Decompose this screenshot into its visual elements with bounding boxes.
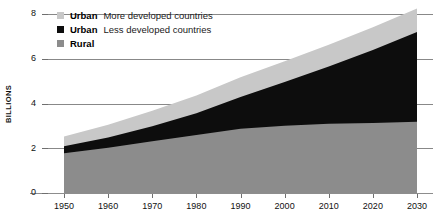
y-tick-label: 4 (31, 98, 36, 108)
y-tick-labels-group: 02468 (31, 8, 36, 197)
x-tick-label: 1960 (98, 201, 118, 211)
x-tick-labels-group: 195019601970198019902000201020202030 (54, 201, 427, 211)
y-tick-label: 6 (31, 53, 36, 63)
chart-legend: UrbanMore developed countriesUrbanLess d… (57, 9, 213, 49)
legend-item-description: Less developed countries (103, 24, 211, 35)
legend-item-description: More developed countries (103, 10, 212, 21)
legend-item[interactable]: UrbanMore developed countries (57, 9, 213, 21)
legend-swatch-icon (57, 12, 64, 19)
legend-item[interactable]: Rural (57, 37, 213, 49)
y-axis-title: BILLIONS (4, 85, 13, 123)
legend-swatch-icon (57, 26, 64, 33)
legend-swatch-icon (57, 40, 64, 47)
x-tick-label: 2020 (363, 201, 383, 211)
x-tick-label: 1980 (186, 201, 206, 211)
y-axis-title-group: BILLIONS (4, 85, 13, 123)
y-tick-label: 2 (31, 143, 36, 153)
x-tick-label: 1990 (230, 201, 250, 211)
x-tick-label: 2030 (407, 201, 427, 211)
x-tick-label: 2000 (275, 201, 295, 211)
chart-container: 02468 1950196019701980199020002010202020… (0, 0, 435, 222)
legend-item-key: Urban (70, 24, 97, 35)
x-tick-label: 1950 (54, 201, 74, 211)
legend-item-key: Urban (70, 10, 97, 21)
x-tick-label: 2010 (319, 201, 339, 211)
y-tick-label: 8 (31, 8, 36, 18)
legend-item-key: Rural (70, 38, 94, 49)
legend-item[interactable]: UrbanLess developed countries (57, 23, 213, 35)
y-tick-label: 0 (31, 187, 36, 197)
x-tick-label: 1970 (142, 201, 162, 211)
